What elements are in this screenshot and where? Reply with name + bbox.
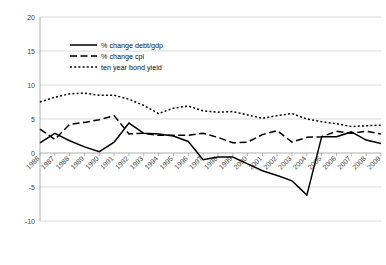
line-chart: 20151050-5-10 19861987198819891990199119…	[0, 0, 386, 265]
series-line-2	[40, 116, 381, 143]
x-tick-label: 1987	[40, 155, 56, 171]
x-tick-label: 2007	[336, 155, 352, 171]
y-tick-label: -10	[25, 218, 35, 225]
x-tick-label: 2008	[351, 155, 367, 171]
gridlines	[40, 17, 381, 221]
x-tick-label: 1992	[114, 155, 130, 171]
legend-label-3: ten year bond yield	[101, 63, 162, 72]
x-tick-label: 1988	[54, 155, 70, 171]
x-tick-label: 2002	[262, 155, 278, 171]
x-tick-label: 2006	[321, 155, 337, 171]
x-tick-label: 1990	[84, 155, 100, 171]
x-tick-label: 1986	[25, 155, 41, 171]
x-tick-label: 1989	[69, 155, 85, 171]
x-tick-label: 2003	[277, 155, 293, 171]
x-axis-tick-marks	[40, 153, 381, 156]
y-tick-label: 15	[27, 48, 35, 55]
y-tick-label: 5	[31, 116, 35, 123]
x-tick-label: 1995	[158, 155, 174, 171]
x-tick-label: 1993	[129, 155, 145, 171]
data-series-group	[40, 93, 381, 195]
chart-container: 20151050-5-10 19861987198819891990199119…	[0, 0, 386, 265]
legend-label-2: % change cpi	[101, 52, 145, 61]
y-tick-label: 20	[27, 14, 35, 21]
y-tick-label: 10	[27, 82, 35, 89]
x-tick-label: 2009	[366, 155, 382, 171]
x-tick-label: 1991	[99, 155, 115, 171]
x-tick-label: 1996	[173, 155, 189, 171]
x-tick-label: 2001	[247, 155, 263, 171]
y-axis-tick-labels: 20151050-5-10	[25, 14, 35, 225]
legend: % change debt/gdp% change cpiten year bo…	[70, 41, 163, 72]
x-tick-label: 2004	[292, 155, 308, 171]
y-tick-label: -5	[29, 184, 35, 191]
series-line-3	[40, 93, 381, 126]
x-tick-label: 1994	[143, 155, 159, 171]
legend-label-1: % change debt/gdp	[101, 41, 163, 50]
x-axis-tick-labels: 1986198719881989199019911992199319941995…	[25, 155, 382, 171]
